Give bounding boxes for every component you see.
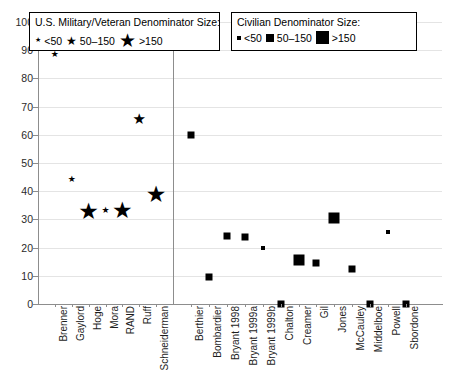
x-tick-mark [55,304,56,307]
data-point-square [187,131,194,138]
x-tick-mark [299,304,300,307]
data-point-star: ★ [146,183,167,206]
x-tick-label: Bryant 1999b [267,306,277,366]
data-point-star: ★ [68,174,76,183]
data-point-square [329,212,340,223]
legend-marker-star-large: ★ [119,31,136,50]
x-tick-mark [370,304,371,307]
x-axis-labels: BrennerGaylordHogeMoraRANDRuffSchneiderm… [0,306,450,387]
data-point-square [293,255,304,266]
legend-marker-star-medium: ★ [66,35,77,47]
x-tick-mark [334,304,335,307]
x-tick-label: Ruff [143,306,153,324]
data-point-square [205,273,212,280]
legend-item-label: <50 [44,35,62,47]
x-tick-label: RAND [126,306,136,334]
x-tick-label: Powell [392,306,402,335]
x-tick-label: Middelboe [374,306,384,352]
legend-marker-square-small [237,36,241,40]
x-tick-mark [263,304,264,307]
legend-marker-square-large [316,31,329,44]
legend-civilian-title: Civilian Denominator Size: [237,16,411,29]
data-point-square [313,260,320,267]
legend-item-label: >150 [139,35,163,47]
gridline [38,276,442,277]
x-tick-label: Bryant 1999a [249,306,259,366]
data-point-square [223,233,230,240]
x-tick-mark [209,304,210,307]
x-tick-label: Creamer [303,306,313,345]
x-tick-label: Gil [320,306,330,318]
x-tick-label: Jones [338,306,348,333]
x-tick-mark [191,304,192,307]
legend-item: ★<50 [35,35,62,47]
data-point-square [386,230,390,234]
x-tick-mark [156,304,157,307]
x-tick-label: Gaylord [76,306,86,341]
y-tick-label: 20 [0,243,33,253]
x-axis-line [38,304,443,305]
legend-civilian: Civilian Denominator Size: <5050–150>150 [231,12,417,51]
y-tick-label: 70 [0,102,33,112]
legend-military-items: ★<50★50–150★>150 [35,31,214,50]
legend-item-label: 50–150 [277,32,312,44]
x-tick-label: Chalton [285,306,295,340]
x-tick-label: McCauley [356,306,366,350]
x-tick-label: Schneiderman [160,306,170,370]
data-point-square [261,246,265,250]
x-tick-label: Berthier [195,306,205,341]
legend-item: <50 [237,32,262,44]
legend-civilian-items: <5050–150>150 [237,31,411,44]
legend-military: U.S. Military/Veteran Denominator Size: … [29,12,220,51]
group-divider-line [173,22,174,305]
gridline [38,107,442,108]
legend-item: ★50–150 [66,35,115,47]
x-tick-mark [406,304,407,307]
x-tick-mark [227,304,228,307]
x-tick-mark [316,304,317,307]
y-tick-label: 40 [0,186,33,196]
data-point-square [241,233,248,240]
y-tick-label: 10 [0,271,33,281]
gridline [38,191,442,192]
legend-item-label: <50 [244,32,262,44]
gridline [38,78,442,79]
x-tick-mark [122,304,123,307]
y-tick-label: 60 [0,130,33,140]
x-tick-mark [106,304,107,307]
legend-item-label: >150 [332,32,356,44]
data-point-star: ★ [112,198,133,221]
x-tick-mark [139,304,140,307]
x-tick-mark [281,304,282,307]
x-tick-mark [352,304,353,307]
x-tick-label: Sbordone [410,306,420,349]
x-tick-mark [72,304,73,307]
legend-item: 50–150 [266,32,312,44]
data-point-star: ★ [78,199,99,222]
legend-item-label: 50–150 [80,35,115,47]
y-tick-label: 50 [0,158,33,168]
legend-item: ★>150 [119,31,163,50]
gridline [38,248,442,249]
x-tick-label: Hoge [93,306,103,330]
data-point-star: ★ [101,205,109,214]
gridline [38,135,442,136]
data-point-square [349,265,356,272]
x-tick-label: Bombardier [213,306,223,358]
legend-item: >150 [316,31,356,44]
y-axis-line [38,22,39,305]
x-tick-label: Bryant 1998 [231,306,241,360]
x-tick-mark [388,304,389,307]
x-tick-label: Mora [110,306,120,329]
x-tick-label: Brenner [59,306,69,342]
x-tick-mark [89,304,90,307]
data-point-star: ★ [51,50,59,59]
x-tick-mark [245,304,246,307]
legend-marker-square-medium [266,34,274,42]
data-point-star: ★ [133,112,146,127]
scatter-chart: 0102030405060708090100 ★★★★★★★ BrennerGa… [0,0,450,387]
gridline [38,163,442,164]
y-tick-label: 80 [0,73,33,83]
legend-military-title: U.S. Military/Veteran Denominator Size: [35,16,214,29]
y-tick-label: 30 [0,214,33,224]
